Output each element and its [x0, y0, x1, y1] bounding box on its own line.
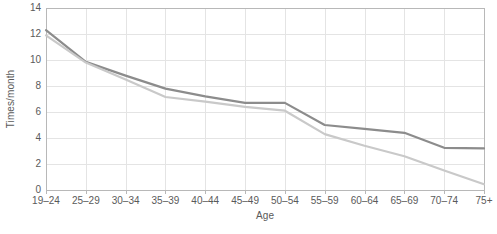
data-line-dark-series — [46, 30, 484, 148]
line-chart-figure: Times/month 0246810121419–2425–2930–3435… — [0, 0, 497, 234]
x-axis-title: Age — [46, 210, 484, 221]
data-line-light-series — [46, 35, 484, 184]
plot-area — [0, 0, 497, 234]
axis-lines — [46, 8, 485, 194]
data-series-group — [46, 30, 484, 184]
grid-lines — [46, 8, 485, 191]
